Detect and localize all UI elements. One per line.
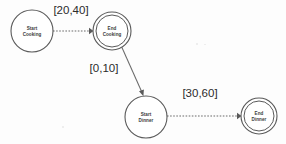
node-end-dinner-label-line2: Dinner	[252, 117, 267, 122]
edge-label-start-cooking-to-end-cooking: [20,40]	[53, 4, 88, 16]
node-end-cooking-label-line1: End	[108, 26, 117, 31]
edge-line-2	[122, 47, 142, 93]
node-end-dinner-inner-outline	[244, 101, 274, 131]
node-end-cooking-inner-outline	[96, 15, 128, 47]
node-end-cooking[interactable]: End Cooking	[93, 12, 131, 50]
node-start-cooking-label-line1: Start	[27, 26, 38, 31]
node-start-dinner-outline	[125, 96, 167, 138]
node-start-dinner-label-line2: Dinner	[139, 118, 154, 123]
state-diagram-canvas: Start Cooking End Cooking Start Dinner E…	[0, 0, 286, 144]
edge-label-start-dinner-to-end-dinner: [30,60]	[182, 87, 217, 99]
node-start-dinner-label-line1: Start	[141, 112, 152, 117]
diagram-svg: Start Cooking End Cooking Start Dinner E…	[0, 0, 286, 144]
edge-start-dinner-to-end-dinner[interactable]	[167, 113, 242, 119]
edge-label-layer: [20,40] [0,10] [30,60]	[53, 4, 217, 99]
node-end-cooking-label-line2: Cooking	[103, 32, 122, 37]
node-start-cooking-outline	[11, 10, 53, 52]
node-start-dinner[interactable]: Start Dinner	[125, 96, 167, 138]
node-end-dinner-label-line1: End	[255, 111, 264, 116]
node-start-cooking-label-line2: Cooking	[23, 32, 42, 37]
edge-end-cooking-to-start-dinner[interactable]	[122, 47, 144, 97]
edge-start-cooking-to-end-cooking[interactable]	[53, 28, 94, 34]
node-start-cooking[interactable]: Start Cooking	[11, 10, 53, 52]
node-end-dinner[interactable]: End Dinner	[241, 98, 277, 134]
arrowhead-icon-2	[139, 90, 144, 97]
edge-label-end-cooking-to-start-dinner: [0,10]	[90, 62, 119, 74]
